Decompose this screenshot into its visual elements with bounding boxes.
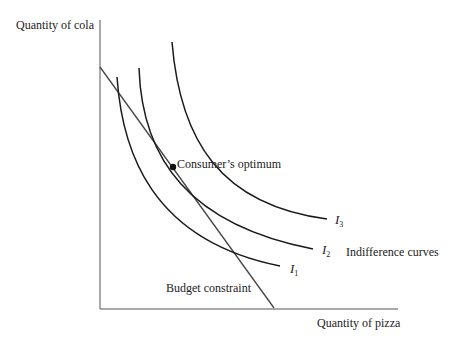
indifference-curve-i1 <box>117 77 280 266</box>
diagram-canvas: Quantity of cola Quantity of pizza Consu… <box>0 0 456 338</box>
x-axis-label: Quantity of pizza <box>317 316 401 330</box>
curve-label-i2: I2 <box>321 242 330 259</box>
budget-constraint-label: Budget constraint <box>166 281 252 295</box>
y-axis-label: Quantity of cola <box>16 18 95 32</box>
curve-label-i3: I3 <box>334 212 343 229</box>
curve-label-i1: I1 <box>289 261 298 278</box>
consumer-optimum-point <box>170 164 176 170</box>
budget-constraint-line <box>100 67 274 308</box>
optimum-label: Consumer’s optimum <box>177 157 282 171</box>
indifference-curves-label: Indifference curves <box>346 245 439 259</box>
indifference-curve-i3 <box>172 42 327 219</box>
